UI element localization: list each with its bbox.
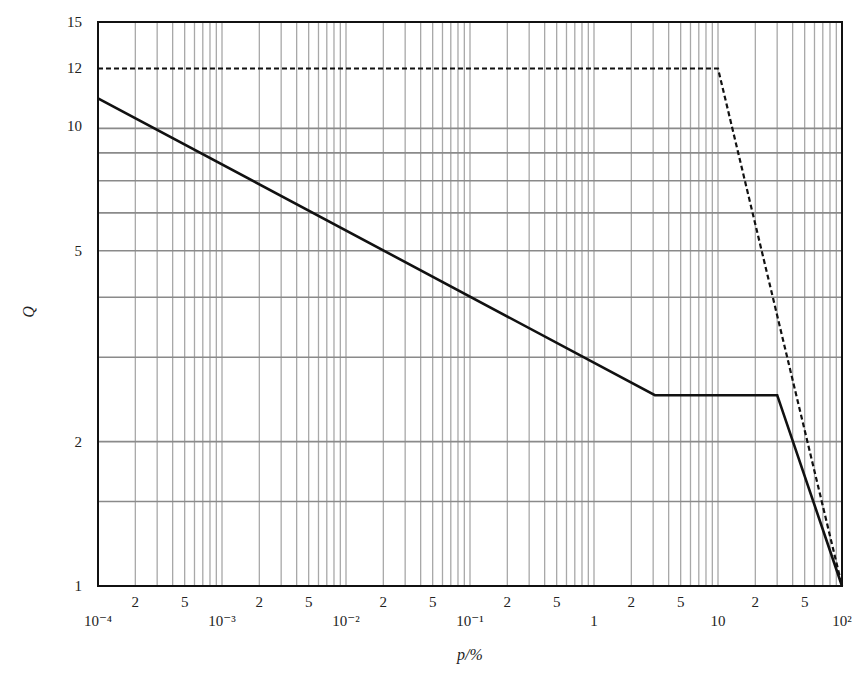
x-axis-ticks: 10⁻⁴10⁻³10⁻²10⁻¹11010²252525252525	[84, 594, 852, 629]
y-tick-label: 1	[75, 578, 83, 594]
x-major-tick-label: 1	[590, 613, 598, 629]
x-major-tick-label: 10²	[832, 613, 852, 629]
x-minor-tick-label: 2	[132, 594, 140, 610]
x-minor-tick-label: 5	[677, 594, 685, 610]
y-tick-label: 5	[75, 243, 83, 259]
x-major-tick-label: 10⁻¹	[456, 613, 483, 629]
grid-lines	[98, 22, 842, 586]
x-minor-tick-label: 2	[628, 594, 636, 610]
y-tick-label: 15	[67, 14, 82, 30]
chart: 125101215 10⁻⁴10⁻³10⁻²10⁻¹11010²25252525…	[0, 0, 863, 679]
x-minor-tick-label: 5	[801, 594, 809, 610]
x-major-tick-label: 10⁻⁴	[84, 613, 112, 629]
x-minor-tick-label: 5	[429, 594, 437, 610]
x-minor-tick-label: 2	[380, 594, 388, 610]
x-minor-tick-label: 5	[305, 594, 313, 610]
x-minor-tick-label: 5	[181, 594, 189, 610]
x-minor-tick-label: 2	[504, 594, 512, 610]
x-major-tick-label: 10⁻³	[208, 613, 236, 629]
x-major-tick-label: 10	[711, 613, 726, 629]
y-axis-ticks: 125101215	[67, 14, 82, 594]
y-tick-label: 10	[67, 118, 82, 134]
x-major-tick-label: 10⁻²	[332, 613, 360, 629]
y-tick-label: 12	[67, 60, 82, 76]
x-minor-tick-label: 2	[752, 594, 760, 610]
x-axis-label: p/%	[456, 646, 483, 664]
x-minor-tick-label: 5	[553, 594, 561, 610]
x-minor-tick-label: 2	[256, 594, 264, 610]
y-axis-label: Q	[20, 306, 37, 318]
y-tick-label: 2	[75, 434, 83, 450]
